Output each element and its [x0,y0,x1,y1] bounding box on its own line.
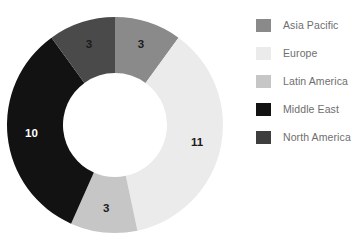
legend-item[interactable]: North America [256,123,362,151]
chart-plot-area: 3113103 [0,0,232,250]
chart-legend: Asia PacificEuropeLatin AmericaMiddle Ea… [256,11,362,151]
legend-item-label: Europe [283,47,317,59]
legend-item-label: Asia Pacific [283,19,338,31]
slice-value-label: 10 [25,127,38,139]
legend-swatch-icon [256,19,271,32]
slice-value-label: 11 [191,136,204,148]
legend-swatch-icon [256,75,271,88]
legend-swatch-icon [256,131,271,144]
legend-item[interactable]: Europe [256,39,362,67]
legend-item-label: Latin America [283,75,348,87]
legend-item[interactable]: Middle East [256,95,362,123]
legend-item[interactable]: Asia Pacific [256,11,362,39]
slice-value-label: 3 [103,202,109,214]
donut-slices [7,17,223,233]
legend-item-label: North America [283,131,351,143]
legend-item[interactable]: Latin America [256,67,362,95]
slice-value-label: 3 [86,38,92,50]
slice-value-label: 3 [138,38,144,50]
legend-swatch-icon [256,47,271,60]
legend-item-label: Middle East [283,103,339,115]
donut-chart: 3113103 [0,0,232,250]
donut-chart-figure: 3113103 Asia PacificEuropeLatin AmericaM… [0,0,362,250]
legend-swatch-icon [256,103,271,116]
